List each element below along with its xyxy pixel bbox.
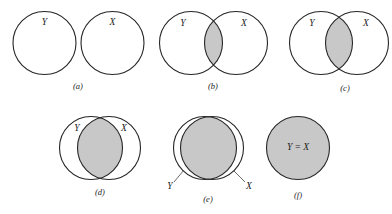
panel-e-leader-line-x bbox=[233, 170, 245, 182]
panel-a-label-x: X bbox=[109, 17, 117, 27]
panel-c: Y X (c) bbox=[290, 12, 389, 93]
panel-e-caption: (e) bbox=[203, 194, 213, 204]
venn-diagram-canvas: Y X (a) Y X (b) Y X (c) bbox=[0, 0, 392, 214]
panel-c-caption: (c) bbox=[340, 83, 350, 93]
panel-e-label-y: Y bbox=[167, 181, 174, 191]
panel-d-caption: (d) bbox=[95, 187, 105, 197]
panel-a-caption: (a) bbox=[73, 81, 83, 91]
panel-e-leader-line-y bbox=[174, 170, 184, 182]
panel-c-label-y: Y bbox=[309, 18, 316, 28]
panel-e: Y X (e) bbox=[167, 117, 253, 204]
panel-f-caption: (f) bbox=[294, 190, 302, 200]
panel-d: Y X (d) bbox=[60, 117, 141, 197]
panel-b-label-y: Y bbox=[180, 18, 187, 28]
panel-f-label-equality: Y = X bbox=[287, 142, 310, 152]
panel-b: Y X (b) bbox=[160, 12, 268, 91]
panel-b-label-x: X bbox=[240, 18, 248, 28]
panel-e-label-x: X bbox=[245, 181, 253, 191]
panel-d-label-y: Y bbox=[74, 123, 81, 133]
panel-b-caption: (b) bbox=[208, 81, 218, 91]
venn-diagram-figure: Y X (a) Y X (b) Y X (c) bbox=[0, 0, 392, 214]
panel-a: Y X (a) bbox=[13, 12, 144, 91]
panel-c-label-x: X bbox=[362, 18, 370, 28]
panel-f: Y = X (f) bbox=[267, 117, 330, 200]
panel-d-label-x: X bbox=[120, 123, 128, 133]
